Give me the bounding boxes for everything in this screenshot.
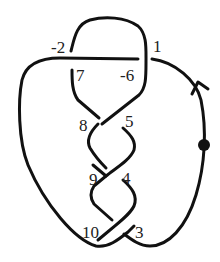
label-crossing-3: 3 xyxy=(135,223,144,242)
label-crossing-8: 8 xyxy=(79,116,88,135)
label-crossing-1: 1 xyxy=(153,37,162,56)
label-crossing-4: 4 xyxy=(122,169,131,188)
label-crossing-neg6: -6 xyxy=(120,66,134,85)
strand-right-outer xyxy=(124,59,204,246)
label-crossing-neg2: -2 xyxy=(51,38,65,57)
knot-canvas: -2 1 7 -6 8 5 9 4 10 3 xyxy=(0,0,220,262)
knot-diagram: -2 1 7 -6 8 5 9 4 10 3 xyxy=(0,0,220,262)
label-crossing-9: 9 xyxy=(89,170,98,189)
strand-left-outer xyxy=(20,58,138,246)
label-crossing-5: 5 xyxy=(125,112,134,131)
strand-8-4 xyxy=(88,124,106,168)
label-crossing-7: 7 xyxy=(76,66,85,85)
basepoint-dot-icon xyxy=(198,139,210,151)
label-crossing-10: 10 xyxy=(82,223,99,242)
